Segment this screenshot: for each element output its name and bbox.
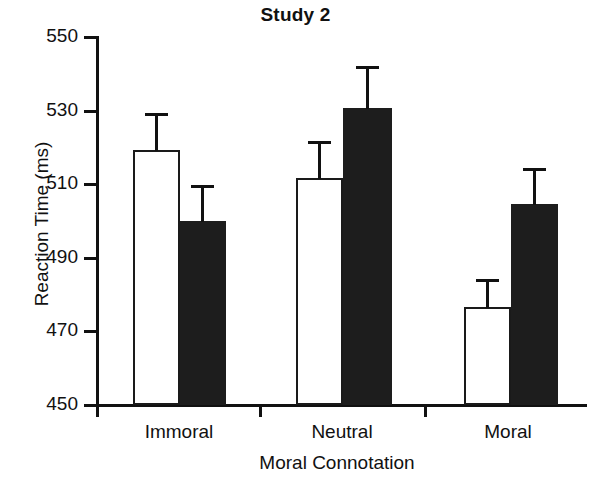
y-tick-label-470: 470 [8,319,78,341]
y-tick-label-510: 510 [8,172,78,194]
y-tick-label-450: 450 [8,393,78,415]
errorbar-cap-neutral-open [308,141,331,144]
bar-neutral-filled [343,108,392,405]
bar-immoral-filled [180,221,226,405]
errorbar-stem-neutral-open [318,141,321,179]
errorbar-cap-immoral-open [145,113,168,116]
y-tick-label-530: 530 [8,99,78,121]
errorbar-stem-moral-filled [533,168,536,205]
y-tick-label-550: 550 [8,25,78,47]
y-tick-mark-510 [84,183,97,186]
y-tick-mark-490 [84,257,97,260]
y-tick-mark-470 [84,330,97,333]
errorbar-cap-immoral-filled [191,185,214,188]
bar-immoral-open [133,150,180,405]
errorbar-cap-moral-filled [523,168,546,171]
errorbar-cap-moral-open [476,279,499,282]
x-tick-label-moral: Moral [433,421,583,443]
errorbar-cap-neutral-filled [356,66,379,69]
bar-moral-open [464,307,511,405]
x-tick-mark-2 [424,404,427,417]
chart-figure: Study 2 Reaction Time (ms) 550 530 510 4… [0,0,591,484]
y-axis-spine [96,36,99,407]
errorbar-stem-neutral-filled [366,66,369,109]
bar-moral-filled [511,204,558,405]
errorbar-stem-immoral-filled [201,185,204,222]
x-axis-title: Moral Connotation [97,452,577,474]
x-tick-label-immoral: Immoral [104,421,254,443]
plot-area: 550 530 510 490 470 450 Immoral Neutral … [0,0,591,484]
x-tick-label-neutral: Neutral [267,421,417,443]
y-tick-mark-530 [84,110,97,113]
x-tick-mark-start [96,404,99,417]
y-tick-mark-550 [84,36,97,39]
y-tick-label-490: 490 [8,246,78,268]
bar-neutral-open [296,178,343,405]
errorbar-stem-moral-open [486,279,489,308]
errorbar-stem-immoral-open [155,113,158,151]
x-tick-mark-1 [259,404,262,417]
